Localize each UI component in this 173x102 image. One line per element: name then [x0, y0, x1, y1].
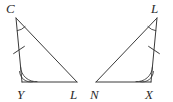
geometry-figure: C Y L L N X — [0, 0, 173, 102]
vertex-label-L-right: L — [150, 1, 158, 16]
vertex-label-C: C — [6, 1, 15, 16]
vertex-label-X: X — [144, 87, 154, 102]
angle-arc-L — [148, 27, 156, 31]
angle-arc-C — [17, 27, 25, 31]
figure-canvas: C Y L L N X — [0, 0, 173, 102]
vertex-label-Y: Y — [17, 87, 26, 102]
vertex-label-N: N — [89, 87, 100, 102]
edge-L-N — [96, 18, 157, 82]
vertex-label-L-left: L — [69, 87, 77, 102]
triangle-CYL: C Y L — [6, 1, 77, 102]
triangle-LNX: L N X — [89, 1, 159, 102]
edge-C-L — [16, 18, 77, 82]
